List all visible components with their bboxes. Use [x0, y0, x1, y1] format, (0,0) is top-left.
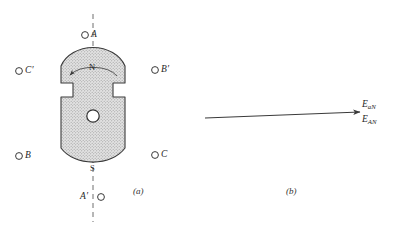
phasor-symbol-lower: E [362, 114, 368, 124]
terminal-label-a-prime: A′ [80, 192, 88, 202]
terminal-label-c-prime: C′ [25, 66, 34, 76]
panel-a-caption: (a) [133, 186, 144, 196]
terminal-marker-a-prime [98, 194, 105, 201]
panel-b-caption: (b) [286, 186, 297, 196]
terminal-label-a: A [91, 30, 97, 40]
terminal-label-b: B [25, 151, 31, 161]
terminal-label-b-prime: B′ [161, 65, 169, 75]
phasor-symbol-upper: E [362, 99, 368, 109]
terminal-marker-c-prime [16, 68, 23, 75]
terminal-marker-c [152, 152, 159, 159]
terminal-marker-b-prime [152, 67, 159, 74]
phasor-subscript-upper: aN [368, 103, 376, 110]
phasor-label-ean-lower: EAN [362, 114, 377, 124]
terminal-marker-a [82, 32, 89, 39]
figure-root: N S A A′ C′ B′ B C (a) EaN EAN (b) [0, 0, 395, 233]
rotor-north-pole-label: N [89, 62, 95, 72]
rotor-south-pole-label: S [90, 163, 95, 173]
phasor-arrow [205, 112, 360, 118]
figure-canvas [0, 0, 395, 233]
terminal-label-c: C [161, 150, 168, 160]
terminal-marker-b [16, 153, 23, 160]
phasor-subscript-lower: AN [368, 118, 377, 125]
rotor-shaft-hub [87, 110, 99, 122]
phasor-label-ean-upper: EaN [362, 99, 376, 109]
